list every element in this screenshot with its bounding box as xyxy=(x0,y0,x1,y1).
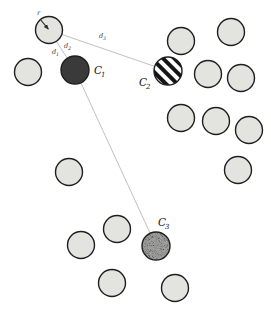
particle-p13 xyxy=(68,232,95,259)
particle-c3 xyxy=(142,232,171,261)
label-d1-sub: 1 xyxy=(56,52,59,57)
particle-p6 xyxy=(228,65,255,92)
particle-c1 xyxy=(61,56,89,84)
particle-p11 xyxy=(56,159,83,186)
particle-p10 xyxy=(225,157,252,184)
particle-cluster-figure: C 1 C 2 C 3 r d 1 d 2 d 3 xyxy=(0,0,271,315)
label-c2-sub: 2 xyxy=(145,83,151,91)
figure-background xyxy=(0,0,271,315)
label-d3-sub: 3 xyxy=(103,36,106,41)
particle-p4 xyxy=(218,19,245,46)
label-c1-sub: 1 xyxy=(101,71,105,79)
particle-p14 xyxy=(99,270,126,297)
particle-p8 xyxy=(203,108,230,135)
particle-p7 xyxy=(168,105,195,132)
label-d2-sub: 2 xyxy=(67,46,71,51)
figure-canvas: C 1 C 2 C 3 r d 1 d 2 d 3 xyxy=(0,0,271,315)
particle-p3 xyxy=(168,28,195,55)
label-c3-sub: 3 xyxy=(165,223,170,231)
particle-p9 xyxy=(236,117,263,144)
particle-p2 xyxy=(15,59,42,86)
particle-c2 xyxy=(154,57,182,85)
particle-p12 xyxy=(104,216,131,243)
particle-p15 xyxy=(162,275,189,302)
particle-p1 xyxy=(36,17,63,44)
particle-p5 xyxy=(195,61,222,88)
